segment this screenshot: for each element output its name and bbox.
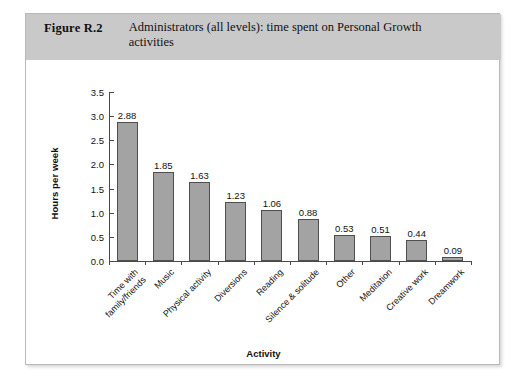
bar: 0.88 xyxy=(298,219,319,261)
figure-card: Figure R.2 Administrators (all levels): … xyxy=(25,13,500,365)
x-axis-tick xyxy=(181,261,182,265)
figure-caption: Administrators (all levels): time spent … xyxy=(103,14,473,50)
x-axis-tick xyxy=(254,261,255,265)
bar-value-label: 0.88 xyxy=(299,207,318,218)
bar-value-label: 0.44 xyxy=(407,228,426,239)
x-axis-title: Activity xyxy=(26,348,501,359)
y-axis-tick: 2.5 xyxy=(110,140,114,141)
x-axis-category-label: Diversions xyxy=(212,267,249,304)
y-axis-line xyxy=(109,92,110,261)
y-axis-tick-label: 3.0 xyxy=(91,111,104,122)
y-axis-tick: 3.0 xyxy=(110,116,114,117)
bar: 0.53 xyxy=(334,235,355,261)
x-axis-tick xyxy=(362,261,363,265)
y-axis-tick: 1.0 xyxy=(110,213,114,214)
y-axis-tick-label: 2.5 xyxy=(91,135,104,146)
bar-value-label: 1.63 xyxy=(190,170,209,181)
category-label-line: Other xyxy=(334,267,358,291)
x-axis-category-label: Time withfamily/friends xyxy=(96,267,149,320)
x-axis-category-label: Other xyxy=(334,267,358,291)
y-axis-tick-label: 0.5 xyxy=(91,231,104,242)
bar-value-label: 0.51 xyxy=(371,224,390,235)
y-axis-tick: 0.0 xyxy=(110,261,114,262)
x-axis-category-label: Dreamwork xyxy=(426,267,466,307)
category-label-line: Music xyxy=(153,267,177,291)
y-axis-tick: 3.5 xyxy=(110,92,114,93)
chart-axes: 0.00.51.01.52.02.53.03.5 2.881.851.631.2… xyxy=(109,92,471,261)
x-axis-tick xyxy=(326,261,327,265)
y-axis-title: Hours per week xyxy=(49,134,60,234)
bar-value-label: 1.06 xyxy=(263,198,282,209)
bar: 0.09 xyxy=(442,257,463,261)
y-axis-tick-label: 2.0 xyxy=(91,159,104,170)
y-axis-tick-label: 0.0 xyxy=(91,256,104,267)
y-axis-tick: 2.0 xyxy=(110,164,114,165)
category-label-line: Diversions xyxy=(212,267,249,304)
bar: 0.51 xyxy=(370,236,391,261)
category-label-line: Dreamwork xyxy=(426,267,466,307)
bar-value-label: 1.23 xyxy=(226,190,245,201)
bar: 2.88 xyxy=(117,122,138,261)
category-label-line: Meditation xyxy=(357,267,394,304)
bar: 1.85 xyxy=(153,172,174,261)
x-axis-tick xyxy=(218,261,219,265)
x-axis-tick xyxy=(109,261,110,265)
y-axis-tick: 0.5 xyxy=(110,237,114,238)
x-axis-tick xyxy=(399,261,400,265)
y-axis-tick-label: 1.0 xyxy=(91,207,104,218)
x-axis-tick xyxy=(435,261,436,265)
x-axis-tick xyxy=(145,261,146,265)
bar-value-label: 2.88 xyxy=(118,110,137,121)
y-axis-tick: 1.5 xyxy=(110,189,114,190)
bar: 1.06 xyxy=(261,210,282,261)
bar: 0.44 xyxy=(406,240,427,261)
figure-number: Figure R.2 xyxy=(26,14,103,36)
bar-value-label: 0.09 xyxy=(444,245,463,256)
bar-value-label: 0.53 xyxy=(335,223,354,234)
y-axis-tick-label: 1.5 xyxy=(91,183,104,194)
x-axis-tick xyxy=(471,261,472,265)
x-axis-tick xyxy=(290,261,291,265)
bar-value-label: 1.85 xyxy=(154,160,173,171)
chart-plot-region: Hours per week 0.00.51.01.52.02.53.03.5 … xyxy=(26,60,501,366)
y-axis-tick-label: 3.5 xyxy=(91,87,104,98)
x-axis-category-label: Reading xyxy=(254,267,285,298)
figure-header: Figure R.2 Administrators (all levels): … xyxy=(26,14,501,60)
bar: 1.23 xyxy=(225,202,246,261)
bar: 1.63 xyxy=(189,182,210,261)
x-axis-category-label: Meditation xyxy=(357,267,394,304)
x-axis-category-label: Music xyxy=(153,267,177,291)
category-label-line: Reading xyxy=(254,267,285,298)
